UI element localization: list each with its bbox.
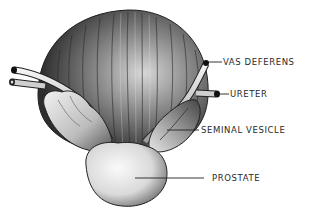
- label-vas-deferens: VAS DEFERENS: [223, 58, 295, 67]
- label-prostate: PROSTATE: [212, 174, 260, 183]
- label-seminal-vesicle: SEMINAL VESICLE: [201, 126, 285, 135]
- bladder-drawing: [0, 0, 309, 218]
- prostate: [86, 142, 167, 206]
- label-ureter: URETER: [230, 90, 268, 99]
- anatomical-illustration: VAS DEFERENS URETER SEMINAL VESICLE PROS…: [0, 0, 309, 218]
